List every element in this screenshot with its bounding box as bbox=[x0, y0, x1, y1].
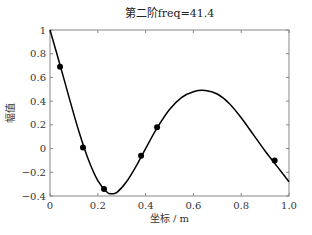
data-point-marker bbox=[138, 153, 144, 159]
y-tick-label: −0.2 bbox=[22, 167, 46, 178]
y-tick-label: 0 bbox=[40, 143, 46, 154]
y-tick-label: 0.8 bbox=[30, 48, 46, 59]
y-tick-label: 0.4 bbox=[30, 96, 46, 107]
x-tick-label: 0.2 bbox=[90, 200, 106, 211]
plot-area-frame bbox=[50, 30, 289, 196]
chart: 第二阶freq=41.4 00.20.40.60.81.0 −0.4−0.200… bbox=[0, 0, 312, 235]
x-tick-label: 0 bbox=[47, 200, 53, 211]
x-tick-label: 0.6 bbox=[185, 200, 201, 211]
y-tick-label: 0.6 bbox=[30, 72, 46, 83]
data-point-marker bbox=[57, 64, 63, 70]
x-axis-label: 坐标 / m bbox=[150, 213, 190, 224]
data-point-marker bbox=[272, 157, 278, 163]
x-tick-label: 0.8 bbox=[233, 200, 249, 211]
data-point-marker bbox=[80, 144, 86, 150]
x-tick-label: 1.0 bbox=[281, 200, 297, 211]
chart-title: 第二阶freq=41.4 bbox=[125, 6, 215, 20]
y-tick-label: 1 bbox=[40, 25, 46, 36]
x-tick-label: 0.4 bbox=[138, 200, 154, 211]
y-axis-label: 幅值 bbox=[4, 103, 16, 123]
y-tick-label: −0.4 bbox=[22, 191, 46, 202]
data-point-marker bbox=[101, 186, 107, 192]
data-point-marker bbox=[154, 124, 160, 130]
y-tick-label: 0.2 bbox=[30, 119, 46, 130]
